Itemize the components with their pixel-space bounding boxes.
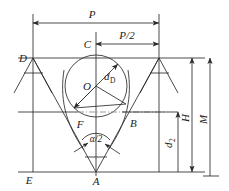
label-half-angle: α/2 xyxy=(90,134,103,144)
label-minor-diameter-subscript: 2 xyxy=(168,138,177,142)
label-point-C: C xyxy=(84,38,92,50)
radius-line-right-contact xyxy=(96,86,126,104)
label-point-O: O xyxy=(83,80,91,92)
label-height-H: H xyxy=(179,113,191,123)
label-point-D: D xyxy=(18,52,27,64)
label-point-B: B xyxy=(130,117,137,129)
label-half-pitch: P/2 xyxy=(118,29,135,41)
label-point-F: F xyxy=(76,118,84,130)
label-measure-M: M xyxy=(197,114,209,125)
label-point-E: E xyxy=(25,174,33,186)
label-ball-diameter-subscript: D xyxy=(110,76,116,85)
thread-geometry-diagram: P P/2 C D O d D F B α/2 E A d 2 H M xyxy=(0,0,229,191)
root-arc-left xyxy=(63,70,84,150)
diagram-canvas: P P/2 C D O d D F B α/2 E A d 2 H M xyxy=(0,0,229,191)
flank-neighbor-right-outer xyxy=(159,58,178,93)
flank-neighbor-right-inner xyxy=(140,58,159,93)
label-pitch: P xyxy=(88,8,96,20)
label-minor-diameter-group: d 2 xyxy=(162,138,177,148)
label-point-A: A xyxy=(92,175,100,187)
flank-neighbor-left-inner xyxy=(33,58,52,93)
